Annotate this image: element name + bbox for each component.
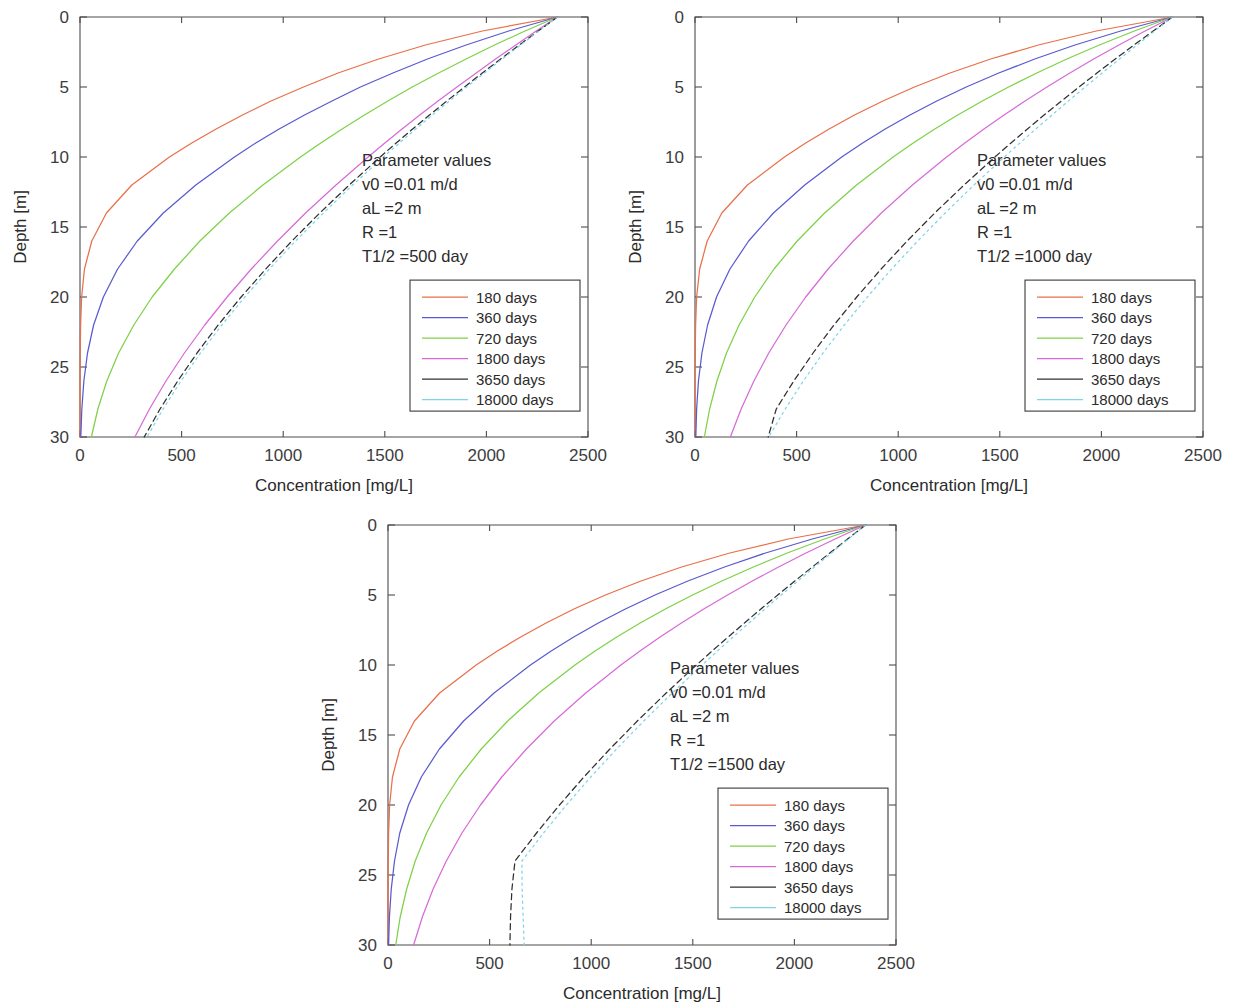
y-tick-label: 30 <box>358 936 377 955</box>
parameter-line: v0 =0.01 m/d <box>362 175 458 193</box>
parameter-values-header: Parameter values <box>977 151 1106 169</box>
y-tick-label: 20 <box>665 288 684 307</box>
x-tick-label: 500 <box>475 954 503 973</box>
parameter-line: v0 =0.01 m/d <box>977 175 1073 193</box>
legend-label-360-days: 360 days <box>1091 309 1152 326</box>
y-tick-label: 5 <box>60 78 69 97</box>
y-axis-title: Depth [m] <box>626 190 645 264</box>
x-tick-label: 2000 <box>467 446 505 465</box>
y-tick-label: 5 <box>675 78 684 97</box>
parameter-line: R =1 <box>670 731 705 749</box>
x-tick-label: 0 <box>690 446 699 465</box>
y-tick-label: 30 <box>50 428 69 447</box>
x-tick-label: 1000 <box>572 954 610 973</box>
legend-label-180-days: 180 days <box>476 289 537 306</box>
plot-svg-panel-2: 05001000150020002500051015202530Concentr… <box>615 0 1235 500</box>
x-tick-label: 1500 <box>366 446 404 465</box>
x-tick-label: 0 <box>75 446 84 465</box>
legend-label-18000-days: 18000 days <box>784 899 862 916</box>
legend-label-18000-days: 18000 days <box>1091 391 1169 408</box>
plot-panel-3: 05001000150020002500051015202530Concentr… <box>308 508 928 1008</box>
y-axis-title: Depth [m] <box>319 698 338 772</box>
y-tick-label: 10 <box>50 148 69 167</box>
parameter-line: v0 =0.01 m/d <box>670 683 766 701</box>
x-tick-label: 1000 <box>879 446 917 465</box>
parameter-line: R =1 <box>977 223 1012 241</box>
x-tick-label: 1500 <box>674 954 712 973</box>
x-tick-label: 500 <box>167 446 195 465</box>
legend-label-3650-days: 3650 days <box>1091 371 1160 388</box>
parameter-values-header: Parameter values <box>670 659 799 677</box>
parameter-line: aL =2 m <box>362 199 421 217</box>
legend-label-3650-days: 3650 days <box>476 371 545 388</box>
y-tick-label: 0 <box>675 8 684 27</box>
y-tick-label: 15 <box>358 726 377 745</box>
x-tick-label: 1000 <box>264 446 302 465</box>
x-tick-label: 2500 <box>1184 446 1222 465</box>
parameter-line: aL =2 m <box>977 199 1036 217</box>
y-tick-label: 30 <box>665 428 684 447</box>
x-tick-label: 500 <box>782 446 810 465</box>
y-tick-label: 0 <box>60 8 69 27</box>
legend-label-360-days: 360 days <box>476 309 537 326</box>
x-axis-title: Concentration [mg/L] <box>870 476 1028 495</box>
y-tick-label: 10 <box>665 148 684 167</box>
parameter-line: T1/2 =1500 day <box>670 755 786 773</box>
y-tick-label: 10 <box>358 656 377 675</box>
y-axis-title: Depth [m] <box>11 190 30 264</box>
legend[interactable]: 180 days360 days720 days1800 days3650 da… <box>1025 280 1195 411</box>
x-tick-label: 0 <box>383 954 392 973</box>
plot-svg-panel-3: 05001000150020002500051015202530Concentr… <box>308 508 928 1008</box>
legend-label-3650-days: 3650 days <box>784 879 853 896</box>
parameter-values-header: Parameter values <box>362 151 491 169</box>
plot-svg-panel-1: 05001000150020002500051015202530Concentr… <box>0 0 620 500</box>
parameter-line: T1/2 =500 day <box>362 247 469 265</box>
legend-label-360-days: 360 days <box>784 817 845 834</box>
parameter-line: T1/2 =1000 day <box>977 247 1093 265</box>
x-tick-label: 2000 <box>775 954 813 973</box>
y-tick-label: 0 <box>368 516 377 535</box>
x-tick-label: 2000 <box>1082 446 1120 465</box>
legend-label-1800-days: 1800 days <box>1091 350 1160 367</box>
legend-label-18000-days: 18000 days <box>476 391 554 408</box>
legend-label-180-days: 180 days <box>1091 289 1152 306</box>
x-tick-label: 2500 <box>877 954 915 973</box>
x-tick-label: 1500 <box>981 446 1019 465</box>
plot-panel-1: 05001000150020002500051015202530Concentr… <box>0 0 620 500</box>
x-axis-title: Concentration [mg/L] <box>563 984 721 1003</box>
legend-label-1800-days: 1800 days <box>784 858 853 875</box>
y-tick-label: 20 <box>50 288 69 307</box>
parameter-line: R =1 <box>362 223 397 241</box>
y-tick-label: 25 <box>665 358 684 377</box>
y-tick-label: 25 <box>358 866 377 885</box>
legend[interactable]: 180 days360 days720 days1800 days3650 da… <box>718 788 888 919</box>
y-tick-label: 5 <box>368 586 377 605</box>
parameter-line: aL =2 m <box>670 707 729 725</box>
legend-label-720-days: 720 days <box>784 838 845 855</box>
x-tick-label: 2500 <box>569 446 607 465</box>
y-tick-label: 25 <box>50 358 69 377</box>
legend-label-720-days: 720 days <box>1091 330 1152 347</box>
plot-panel-2: 05001000150020002500051015202530Concentr… <box>615 0 1235 500</box>
legend-label-1800-days: 1800 days <box>476 350 545 367</box>
y-tick-label: 20 <box>358 796 377 815</box>
legend-label-180-days: 180 days <box>784 797 845 814</box>
y-tick-label: 15 <box>665 218 684 237</box>
x-axis-title: Concentration [mg/L] <box>255 476 413 495</box>
legend-label-720-days: 720 days <box>476 330 537 347</box>
y-tick-label: 15 <box>50 218 69 237</box>
legend[interactable]: 180 days360 days720 days1800 days3650 da… <box>410 280 580 411</box>
